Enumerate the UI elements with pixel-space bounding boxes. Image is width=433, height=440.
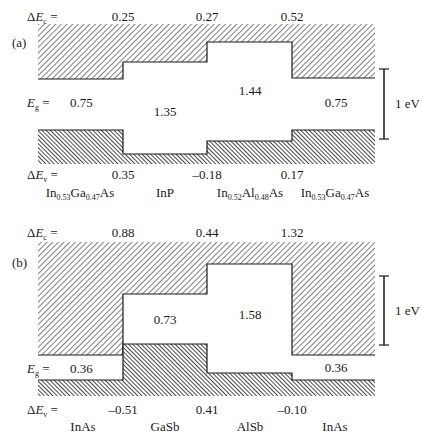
delta-ec-symbol: ΔE (27, 9, 43, 24)
panel-a-eg-label: Eg = (27, 96, 50, 110)
delta-ev-symbol: ΔE (27, 167, 43, 182)
eg-subscript: g (35, 369, 39, 378)
panel-a-delta-ev-value: 0.35 (112, 168, 135, 182)
panel-a-eg-value: 1.44 (239, 84, 262, 98)
panel-a-material-label: In0.53Ga0.47As (301, 186, 369, 200)
panel-a-valence-band (38, 130, 375, 164)
panel-a-eg-value: 1.35 (154, 105, 177, 119)
delta-ev-subscript: v (43, 410, 47, 419)
panel-b-delta-ec-label: ΔEc = (27, 226, 57, 240)
panel-b-eg-value: 0.36 (325, 361, 348, 375)
panel-b-delta-ec-value: 0.88 (112, 226, 135, 240)
panel-a-eg-value: 0.75 (325, 96, 348, 110)
panel-a-delta-ev-value: –0.18 (192, 168, 221, 182)
delta-ev-subscript: v (43, 175, 47, 184)
panel-b-eg-value: 0.36 (70, 362, 93, 376)
panel-a-eg-value: 0.75 (70, 96, 93, 110)
panel-a-delta-ev-value: 0.17 (281, 168, 304, 182)
panel-a-tag: (a) (12, 36, 26, 50)
panel-b-delta-ev-value: 0.41 (196, 403, 219, 417)
panel-b-delta-ev-value: –0.51 (108, 403, 137, 417)
panel-a-scale-bar (379, 69, 389, 139)
band-diagram-canvas (0, 0, 433, 440)
panel-a-delta-ev-label: ΔEv = (27, 168, 58, 182)
delta-ev-symbol: ΔE (27, 402, 43, 417)
panel-a-delta-ec-value: 0.52 (281, 10, 304, 24)
panel-b-delta-ec-value: 1.32 (281, 226, 304, 240)
panel-b-eg-value: 1.58 (239, 308, 262, 322)
panel-a-conduction-band (38, 24, 375, 79)
panel-b-scale-label: 1 eV (395, 304, 420, 318)
delta-ec-subscript: c (43, 17, 47, 26)
panel-b-eg-label: Eg = (27, 362, 50, 376)
panel-b-delta-ec-value: 0.44 (196, 226, 219, 240)
eg-symbol: E (27, 361, 35, 376)
eg-symbol: E (27, 95, 35, 110)
delta-ec-subscript: c (43, 233, 47, 242)
panel-a-delta-ec-value: 0.27 (196, 10, 219, 24)
panel-b-material-label: InAs (70, 420, 95, 434)
panel-b-delta-ev-value: –0.10 (277, 403, 306, 417)
panel-b-tag: (b) (12, 256, 27, 270)
panel-b-material-label: GaSb (151, 420, 180, 434)
panel-b-delta-ev-label: ΔEv = (27, 403, 58, 417)
delta-ec-symbol: ΔE (27, 225, 43, 240)
panel-b-conduction-band (38, 242, 375, 355)
panel-a-delta-ec-value: 0.25 (112, 10, 135, 24)
eg-subscript: g (35, 103, 39, 112)
panel-a-material-label: In0.52Al0.48As (217, 186, 283, 200)
panel-b-eg-value: 0.73 (154, 313, 177, 327)
panel-b-scale-bar (379, 276, 389, 345)
panel-b-material-label: InAs (322, 420, 347, 434)
panel-a-scale-label: 1 eV (395, 97, 420, 111)
panel-a-delta-ec-label: ΔEc = (27, 10, 57, 24)
panel-b-material-label: AlSb (237, 420, 264, 434)
panel-a-material-label: InP (156, 186, 174, 200)
panel-a-material-label: In0.53Ga0.47As (46, 186, 114, 200)
